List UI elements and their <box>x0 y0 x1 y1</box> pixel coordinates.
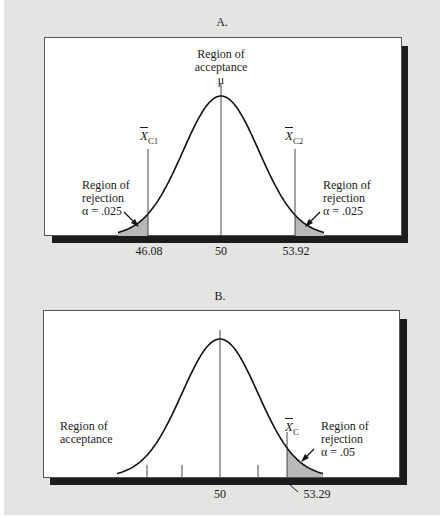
critical-label-b: XC <box>285 419 299 437</box>
rejection-label-b: Region of rejection α = .05 <box>321 420 369 459</box>
tick-label-b-center: 50 <box>195 487 245 502</box>
acceptance-label-b: Region of acceptance <box>60 420 113 446</box>
tick-label-b-crit: 53.29 <box>292 487 342 502</box>
